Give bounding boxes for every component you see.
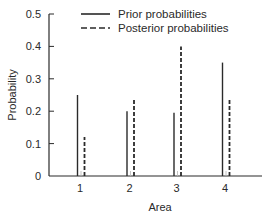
y-axis-label: Probability [6,69,18,121]
y-tick-label: 0.1 [26,138,41,150]
y-tick-label: 0 [35,170,41,182]
bars [78,46,230,176]
x-tick-label: 1 [77,182,83,194]
x-ticks: 1234 [77,171,228,194]
y-tick-label: 0.3 [26,73,41,85]
x-tick-label: 2 [126,182,132,194]
x-axis-label: Area [148,201,172,213]
y-tick-label: 0.4 [26,40,41,52]
y-tick-label: 0.5 [26,8,41,20]
y-ticks: 00.10.20.30.40.5 [26,8,54,182]
x-tick-label: 4 [222,182,228,194]
legend-label: Prior probabilities [118,8,207,20]
x-tick-label: 3 [173,182,179,194]
probability-chart: 00.10.20.30.40.5 1234 Prior probabilitie… [0,0,271,221]
legend: Prior probabilitiesPosterior probabiliti… [81,8,229,34]
y-tick-label: 0.2 [26,105,41,117]
legend-label: Posterior probabilities [118,22,229,34]
